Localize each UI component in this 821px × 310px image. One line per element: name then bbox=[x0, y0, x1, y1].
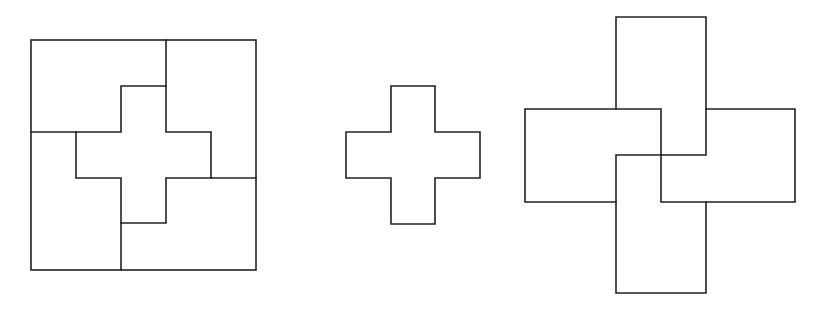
standalone-cross-figure bbox=[346, 86, 480, 224]
dissection-diagram bbox=[0, 0, 821, 310]
pinwheel-rectangles-figure bbox=[525, 17, 795, 293]
square-dissection-figure bbox=[31, 40, 256, 270]
outer-square bbox=[31, 40, 256, 270]
inner-cross-outline bbox=[76, 86, 211, 223]
cross-outline bbox=[346, 86, 480, 224]
